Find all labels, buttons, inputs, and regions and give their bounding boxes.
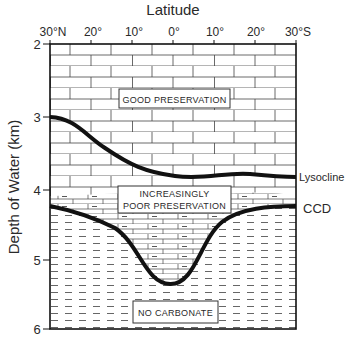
x-tick-label: 30°N (40, 25, 67, 39)
y-axis-ticks (43, 44, 50, 329)
x-tick-label: 0° (168, 25, 180, 39)
x-tick-label: 20° (84, 25, 102, 39)
ccd-label: CCD (303, 201, 331, 216)
x-tick-label: 30°S (285, 25, 311, 39)
carbonate-preservation-diagram: Latitude 30°N 20° 10° 0° 10° 20° 30°S 2 … (0, 0, 350, 343)
x-axis-title: Latitude (146, 1, 199, 18)
y-tick-label: 2 (33, 37, 40, 52)
y-axis-title: Depth of Water (km) (5, 120, 22, 254)
x-tick-label: 20° (247, 25, 265, 39)
y-tick-label: 5 (33, 253, 40, 268)
x-tick-label: 10° (125, 25, 143, 39)
lysocline-label: Lysocline (299, 171, 344, 183)
x-tick-label: 10° (206, 25, 224, 39)
y-tick-label: 4 (33, 183, 40, 198)
poor-preservation-label: INCREASINGLY POOR PRESERVATION (118, 186, 231, 213)
svg-text:NO CARBONATE: NO CARBONATE (138, 308, 213, 318)
y-tick-label: 6 (33, 322, 40, 337)
no-carbonate-label: NO CARBONATE (133, 301, 218, 323)
svg-text:POOR PRESERVATION: POOR PRESERVATION (123, 201, 226, 211)
good-preservation-label: GOOD PRESERVATION (119, 89, 230, 108)
svg-text:INCREASINGLY: INCREASINGLY (140, 189, 210, 199)
svg-text:GOOD PRESERVATION: GOOD PRESERVATION (122, 95, 226, 105)
y-tick-label: 3 (33, 110, 40, 125)
